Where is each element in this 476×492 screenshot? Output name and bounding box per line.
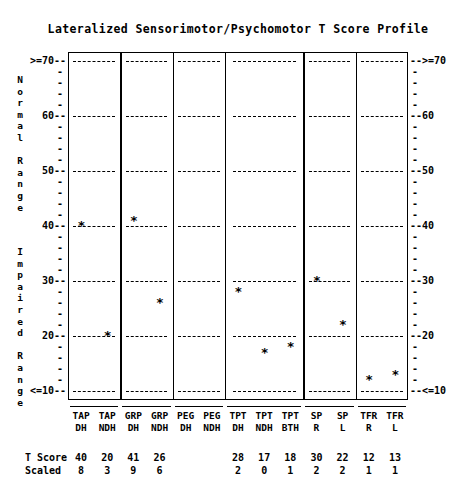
y-minor-tick-right-54: -	[412, 145, 418, 153]
y-minor-tick-left-56: -	[57, 134, 63, 142]
y-minor-tick-left-22: -	[57, 321, 63, 329]
y-tick-left-30: 30--	[42, 276, 66, 285]
y-minor-tick-right-42: -	[412, 211, 418, 219]
group-divider-2	[225, 52, 226, 400]
group-divider-0	[120, 52, 121, 400]
marker-tfr-r: *	[365, 375, 372, 384]
y-minor-tick-left-64: -	[57, 90, 63, 98]
marker-tap-dh: *	[78, 221, 85, 230]
group-rule-0	[70, 406, 118, 407]
y-tick-left-20: 20--	[42, 331, 66, 340]
y-minor-tick-left-28: -	[57, 288, 63, 296]
y-minor-tick-right-16: -	[412, 354, 418, 362]
gridline-t30	[126, 281, 168, 282]
column-header-tfr-l: TFRL	[373, 410, 417, 434]
y-minor-tick-left-58: -	[57, 123, 63, 131]
marker-sp-l: *	[339, 320, 346, 329]
axis-label-char: i	[14, 292, 26, 304]
gridline-t60	[233, 116, 296, 117]
axis-label-char: m	[14, 109, 26, 121]
gridline-t10	[309, 391, 351, 392]
gridline-t40	[309, 226, 351, 227]
y-minor-tick-right-14: -	[412, 365, 418, 373]
column-header-side: L	[373, 422, 417, 434]
gridline-t20	[233, 336, 296, 337]
y-tick-right-60: --60	[410, 111, 434, 120]
y-minor-tick-left-68: -	[57, 68, 63, 76]
group-divider-4	[356, 52, 357, 400]
marker-tfr-l: *	[391, 370, 398, 379]
gridline-t30	[178, 281, 220, 282]
axis-label-char	[14, 144, 26, 156]
axis-label-char: R	[14, 350, 26, 362]
y-minor-tick-right-62: -	[412, 101, 418, 109]
axis-label-char: R	[14, 155, 26, 167]
column-header-test: TFR	[373, 410, 417, 422]
y-tick-right-10: --<=10	[410, 386, 446, 395]
y-minor-tick-right-66: -	[412, 79, 418, 87]
gridline-t10	[233, 391, 296, 392]
gridline-t20	[178, 336, 220, 337]
axis-label-char: r	[14, 97, 26, 109]
y-minor-tick-right-68: -	[412, 68, 418, 76]
y-minor-tick-right-26: -	[412, 299, 418, 307]
group-rule-1	[122, 406, 170, 407]
t-score-profile-chart: Lateralized Sensorimotor/Psychomotor T S…	[0, 0, 476, 492]
gridline-t60	[178, 116, 220, 117]
y-minor-tick-right-12: -	[412, 376, 418, 384]
plot-area: ***********	[68, 52, 408, 400]
group-divider-3	[303, 52, 304, 400]
chart-title: Lateralized Sensorimotor/Psychomotor T S…	[0, 22, 476, 36]
y-tick-left-10: <=10--	[30, 386, 66, 395]
axis-label-char: e	[14, 397, 26, 409]
y-minor-tick-left-34: -	[57, 255, 63, 263]
gridline-t60	[126, 116, 168, 117]
y-minor-tick-left-32: -	[57, 266, 63, 274]
gridline-t30	[73, 281, 115, 282]
y-minor-tick-left-14: -	[57, 365, 63, 373]
gridline-t30	[233, 281, 296, 282]
y-minor-tick-left-38: -	[57, 233, 63, 241]
marker-tpt-ndh: *	[261, 348, 268, 357]
gridline-t70	[233, 61, 296, 62]
axis-label-char: n	[14, 374, 26, 386]
gridline-t70	[361, 61, 403, 62]
y-minor-tick-right-36: -	[412, 244, 418, 252]
y-tick-right-20: --20	[410, 331, 434, 340]
group-rule-4	[305, 406, 353, 407]
normal-range-axis-label: Normal Range	[14, 74, 26, 213]
y-minor-tick-left-48: -	[57, 178, 63, 186]
axis-label-char: p	[14, 269, 26, 281]
axis-label-char: l	[14, 132, 26, 144]
gridline-t70	[178, 61, 220, 62]
y-minor-tick-left-16: -	[57, 354, 63, 362]
y-minor-tick-right-34: -	[412, 255, 418, 263]
axis-label-char: e	[14, 316, 26, 328]
marker-tap-ndh: *	[104, 331, 111, 340]
y-minor-tick-right-24: -	[412, 310, 418, 318]
axis-label-char: g	[14, 190, 26, 202]
y-minor-tick-left-54: -	[57, 145, 63, 153]
axis-label-char: N	[14, 74, 26, 86]
scaled-row-label: Scaled	[25, 465, 61, 477]
y-tick-right-50: --50	[410, 166, 434, 175]
gridline-t50	[233, 171, 296, 172]
axis-label-char: d	[14, 327, 26, 339]
y-tick-left-60: 60--	[42, 111, 66, 120]
plot-border-right	[407, 52, 408, 400]
axis-label-char: a	[14, 362, 26, 374]
y-minor-tick-right-58: -	[412, 123, 418, 131]
y-minor-tick-right-32: -	[412, 266, 418, 274]
gridline-t10	[178, 391, 220, 392]
gridline-t60	[361, 116, 403, 117]
scaled-value-grp-ndh: 6	[140, 465, 180, 477]
axis-label-char: e	[14, 202, 26, 214]
gridline-t70	[126, 61, 168, 62]
gridline-t50	[309, 171, 351, 172]
axis-label-char: a	[14, 281, 26, 293]
y-minor-tick-left-12: -	[57, 376, 63, 384]
axis-label-char: a	[14, 167, 26, 179]
y-minor-tick-left-44: -	[57, 200, 63, 208]
gridline-t20	[361, 336, 403, 337]
group-divider-1	[173, 52, 174, 400]
